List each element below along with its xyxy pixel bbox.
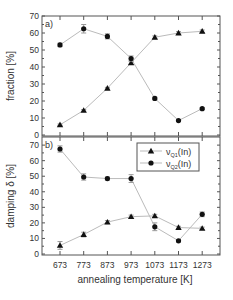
panel-label: a) [45, 19, 53, 29]
circle-marker-icon [152, 224, 157, 229]
x-tick-label: 973 [124, 260, 138, 270]
circle-marker-icon [129, 176, 134, 181]
y-tick-label: 40 [30, 187, 40, 197]
y-tick-label: 40 [30, 62, 40, 72]
y-tick-label: 30 [30, 202, 40, 212]
legend: νQ1(In)νQ2(In) [137, 143, 199, 171]
y-tick-label: 70 [30, 140, 40, 150]
y-tick-label: 10 [30, 113, 40, 123]
y-tick-label: 50 [30, 45, 40, 55]
panel-b: 010203040506070b)damping δ [%]6737738739… [5, 137, 220, 285]
x-tick-label: 1273 [193, 260, 212, 270]
y-tick-label: 50 [30, 171, 40, 181]
x-tick-label: 773 [77, 260, 91, 270]
y-tick-label: 60 [30, 28, 40, 38]
circle-marker-icon [105, 34, 110, 39]
x-tick-label: 873 [100, 260, 114, 270]
panel-label: b) [45, 140, 53, 150]
x-axis-label: annealing temperature [K] [77, 274, 192, 285]
plot-frame [42, 16, 220, 136]
y-axis-label: damping δ [%] [5, 164, 16, 228]
x-tick-label: 1073 [145, 260, 164, 270]
circle-marker-icon [148, 160, 153, 165]
y-axis-label: fraction [%] [5, 51, 16, 101]
y-tick-label: 0 [34, 249, 39, 259]
series-line [60, 29, 202, 121]
circle-marker-icon [57, 42, 62, 47]
triangle-marker-icon [199, 28, 205, 34]
legend-label: νQ1(In) [166, 147, 191, 158]
y-tick-label: 20 [30, 218, 40, 228]
panel-a: 010203040506070a)fraction [%] [5, 11, 220, 140]
circle-marker-icon [200, 212, 205, 217]
x-tick-label: 673 [53, 260, 67, 270]
x-tick-label: 1173 [169, 260, 188, 270]
circle-marker-icon [200, 106, 205, 111]
triangle-marker-icon [57, 242, 63, 248]
annealing-chart: 010203040506070a)fraction [%]01020304050… [0, 0, 233, 300]
y-tick-label: 10 [30, 233, 40, 243]
y-tick-label: 0 [34, 130, 39, 140]
circle-marker-icon [81, 26, 86, 31]
circle-marker-icon [152, 96, 157, 101]
circle-marker-icon [176, 238, 181, 243]
y-tick-label: 20 [30, 96, 40, 106]
y-tick-label: 30 [30, 79, 40, 89]
y-tick-label: 60 [30, 156, 40, 166]
circle-marker-icon [105, 176, 110, 181]
y-tick-label: 70 [30, 11, 40, 21]
circle-marker-icon [81, 174, 86, 179]
chart-svg: 010203040506070a)fraction [%]01020304050… [0, 0, 233, 300]
circle-marker-icon [57, 146, 62, 151]
circle-marker-icon [129, 56, 134, 61]
circle-marker-icon [176, 118, 181, 123]
legend-label: νQ2(In) [166, 159, 191, 170]
